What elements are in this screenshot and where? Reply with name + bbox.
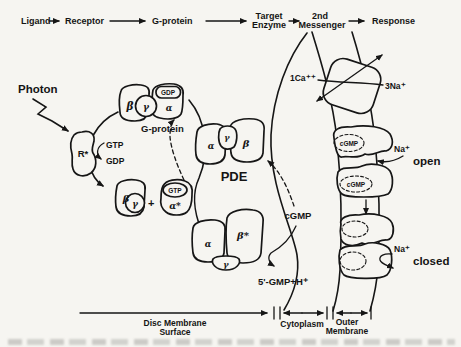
na-ca-exchanger-channel (320, 55, 384, 117)
alpha-label: α (166, 103, 173, 113)
header-target-line2: Enzyme (252, 20, 286, 30)
closed-channel-upper-blob (340, 214, 393, 246)
sodium-blocked-label: Na⁺ (394, 244, 410, 254)
cytoplasm-label: Cytoplasm (280, 319, 324, 329)
gtp-label: GTP (106, 140, 124, 150)
header-receptor-label: Receptor (65, 16, 105, 26)
alpha-to-pde-activation-arc (189, 100, 205, 229)
header-gprotein-label: G-protein (152, 16, 193, 26)
open-state-label: open (413, 155, 440, 167)
pde-beta-label: β (242, 138, 250, 149)
sodium-entry-arrow (378, 156, 403, 162)
phototransduction-figure: Ligand Receptor G-protein Target Enzyme … (0, 0, 461, 347)
closed-state-label: closed (413, 255, 449, 267)
bound-gtp-label: GTP (168, 187, 182, 194)
closed-channel-lower-blob (339, 243, 392, 279)
sodium-out-label: 3Na⁺ (385, 81, 406, 91)
beta-label: β (126, 100, 134, 112)
pde-active-beta-label: β* (236, 230, 250, 241)
activated-rhodopsin-label: R* (78, 148, 89, 159)
header-response-label: Response (372, 16, 415, 26)
plus-sign: + (148, 197, 154, 209)
sodium-in-open-label: Na⁺ (394, 144, 410, 154)
outer-membrane-label-line2: Membrane (326, 326, 369, 336)
calcium-label: 1Ca⁺⁺ (290, 73, 316, 83)
pde-alpha-label: α (208, 141, 215, 151)
diagram-canvas: Ligand Receptor G-protein Target Enzyme … (0, 0, 461, 347)
header-messenger-line2: Messenger (298, 20, 346, 30)
photon-label: Photon (18, 83, 58, 95)
cropped-caption-text (8, 339, 455, 345)
bound-gdp-label: GDP (161, 89, 176, 96)
cgmp-hydrolysis-arrow (269, 226, 296, 266)
cgmp-bound-label-1: cGMP (340, 140, 359, 147)
photon-zigzag-arrow (33, 99, 68, 131)
active-alpha-label: α* (169, 201, 181, 211)
gamma-label: γ (143, 102, 150, 112)
gtp-gdp-exchange-arrow (98, 143, 104, 159)
cgmp-label: cGMP (285, 210, 313, 221)
disc-membrane-label-line2: Surface (159, 327, 190, 337)
pde-active-alpha-label: α (205, 239, 212, 249)
free-gamma-label: γ (132, 199, 138, 209)
pde-label: PDE (221, 169, 248, 184)
gdp-label: GDP (106, 156, 125, 166)
header-ligand-label: Ligand (21, 16, 51, 26)
cgmp-bound-label-2: cGMP (347, 181, 366, 188)
gprotein-complex-label: G-protein (141, 123, 184, 134)
pde-active-gamma-label: γ (223, 259, 229, 269)
pde-gamma-label: γ (224, 132, 230, 142)
free-beta-label: β (122, 193, 130, 204)
hydrolysis-product-label: 5'-GMP+H⁺ (258, 276, 308, 287)
